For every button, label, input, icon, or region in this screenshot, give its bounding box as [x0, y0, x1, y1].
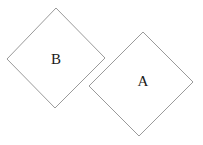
shape-b: B: [7, 8, 105, 108]
diagram-canvas: B A: [0, 0, 203, 145]
label-a: A: [138, 73, 149, 89]
shape-a: A: [89, 32, 193, 136]
label-b: B: [51, 51, 61, 67]
